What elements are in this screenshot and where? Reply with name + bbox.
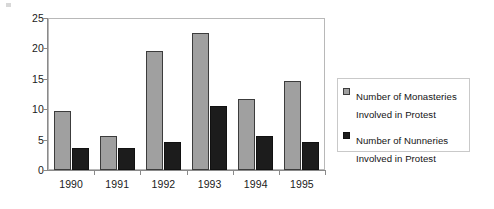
bar-nunneries-1992: [164, 142, 181, 170]
bar-nunneries-1990: [72, 148, 89, 170]
bar-monasteries-1994: [238, 99, 255, 170]
legend-label: Number of Nunneries Involved in Protest: [356, 135, 448, 164]
x-axis-tick-mark: [187, 171, 188, 175]
y-axis: 0510152025: [0, 0, 44, 209]
bar-nunneries-1991: [118, 148, 135, 170]
x-axis-tick-label: 1990: [48, 178, 94, 190]
x-axis-tick-label: 1994: [233, 178, 279, 190]
y-axis-tick-label: 15: [0, 74, 44, 85]
legend-swatch-monasteries-icon: [343, 88, 350, 95]
y-axis-tick-label: 25: [0, 13, 44, 24]
y-axis-tick-label: 20: [0, 43, 44, 54]
bar-chart-figure: 0510152025 Number of Monasteries Involve…: [0, 0, 494, 209]
bar-monasteries-1993: [192, 33, 209, 170]
bar-nunneries-1995: [302, 142, 319, 170]
bars-layer: [48, 18, 325, 170]
legend-swatch-nunneries-icon: [343, 132, 350, 139]
y-axis-tick-label: 10: [0, 104, 44, 115]
bar-monasteries-1992: [146, 51, 163, 170]
x-axis-tick-mark: [94, 171, 95, 175]
x-axis-tick-label: 1993: [187, 178, 233, 190]
y-axis-tick-label: 0: [0, 165, 44, 176]
x-axis-tick-mark: [140, 171, 141, 175]
legend-entry-nunneries: Number of Nunneries Involved in Protest: [343, 130, 465, 166]
x-axis-tick-mark: [279, 171, 280, 175]
y-axis-tick-mark: [43, 18, 48, 19]
y-axis-tick-mark: [43, 48, 48, 49]
x-axis-tick-label: 1992: [140, 178, 186, 190]
legend-label: Number of Monasteries Involved in Protes…: [356, 91, 457, 120]
bar-nunneries-1994: [256, 136, 273, 170]
legend-entry-monasteries: Number of Monasteries Involved in Protes…: [343, 86, 465, 122]
x-axis-tick-label: 1995: [279, 178, 325, 190]
bar-monasteries-1995: [284, 81, 301, 170]
y-axis-tick-mark: [43, 109, 48, 110]
bar-nunneries-1993: [210, 106, 227, 170]
x-axis-tick-label: 1991: [94, 178, 140, 190]
bar-monasteries-1991: [100, 136, 117, 170]
x-axis-tick-mark: [233, 171, 234, 175]
x-axis-tick-mark: [325, 171, 326, 175]
chart-legend: Number of Monasteries Involved in Protes…: [337, 78, 470, 152]
bar-monasteries-1990: [54, 111, 71, 170]
y-axis-tick-mark: [43, 170, 48, 171]
y-axis-tick-label: 5: [0, 135, 44, 146]
y-axis-tick-mark: [43, 79, 48, 80]
y-axis-tick-mark: [43, 140, 48, 141]
